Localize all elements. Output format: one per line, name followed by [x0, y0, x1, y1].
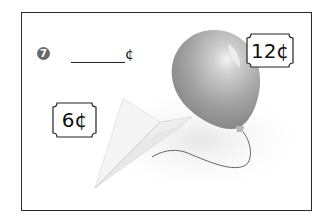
- answer-blank-line[interactable]: [71, 62, 125, 63]
- price-tag-airplane: 6¢: [52, 102, 97, 138]
- price-label-balloon: 12¢: [251, 39, 289, 63]
- price-tag-balloon: 12¢: [246, 33, 294, 68]
- problem-number-badge: 7: [37, 47, 50, 60]
- cent-unit-label: ¢: [125, 46, 134, 62]
- price-label-airplane: 6¢: [62, 108, 87, 132]
